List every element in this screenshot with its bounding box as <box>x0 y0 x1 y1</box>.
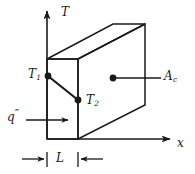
t2-label-subscript: 2 <box>94 99 99 108</box>
t1-point-marker <box>45 73 52 80</box>
temperature-axis-label: T <box>61 6 69 18</box>
thickness-label: L <box>56 152 64 164</box>
heat-flux-label-base: q <box>7 110 15 124</box>
t2-point-marker <box>75 97 82 104</box>
heat-flux-label: q″ <box>7 111 19 123</box>
t1-label-base: T <box>28 67 36 81</box>
area-point-marker <box>110 75 117 82</box>
position-axis-label: x <box>177 137 184 149</box>
temperature-profile-line <box>48 76 78 100</box>
t1-label: T1 <box>28 68 41 80</box>
cross-section-area-label: Ac <box>164 70 177 82</box>
diagram-canvas <box>0 0 195 174</box>
heat-flux-double-prime: ″ <box>15 106 19 120</box>
slab-front-face <box>47 59 78 139</box>
slab-top-face <box>47 24 145 59</box>
t1-label-subscript: 1 <box>36 73 41 82</box>
area-label-base: A <box>164 69 173 83</box>
slab-solid <box>47 24 145 139</box>
thermal-conduction-diagram: T x T1 T2 Ac q″ L <box>0 0 195 174</box>
slab-right-face <box>78 24 145 139</box>
t2-label: T2 <box>86 94 99 106</box>
t2-label-base: T <box>86 93 94 107</box>
area-label-subscript: c <box>173 75 177 84</box>
